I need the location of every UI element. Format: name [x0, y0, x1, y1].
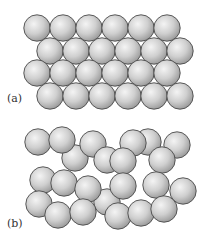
sphere — [151, 196, 177, 222]
sphere — [24, 60, 50, 86]
sphere — [143, 172, 169, 198]
sphere — [102, 60, 128, 86]
panel-a-ordered-spheres — [24, 15, 193, 109]
sphere — [75, 176, 101, 202]
sphere — [25, 129, 51, 155]
sphere — [76, 60, 102, 86]
sphere — [102, 15, 128, 41]
sphere — [76, 15, 102, 41]
sphere — [154, 15, 180, 41]
sphere — [51, 170, 77, 196]
sphere-packing-diagram — [0, 0, 206, 236]
sphere — [141, 83, 167, 109]
sphere — [37, 83, 63, 109]
panel-a-label: (a) — [7, 93, 22, 104]
sphere — [115, 83, 141, 109]
sphere — [110, 148, 136, 174]
sphere — [149, 147, 175, 173]
sphere — [70, 199, 96, 225]
sphere — [128, 15, 154, 41]
sphere — [154, 60, 180, 86]
sphere — [167, 83, 193, 109]
panel-b-label: (b) — [7, 218, 23, 229]
sphere — [128, 60, 154, 86]
sphere — [63, 83, 89, 109]
sphere — [128, 200, 154, 226]
sphere — [105, 203, 131, 229]
sphere — [110, 173, 136, 199]
sphere — [50, 60, 76, 86]
sphere — [50, 15, 76, 41]
sphere — [89, 83, 115, 109]
sphere — [24, 15, 50, 41]
panel-b-disordered-spheres — [25, 127, 196, 229]
sphere — [49, 127, 75, 153]
sphere-packing-figure: (a) (b) — [0, 0, 206, 236]
sphere — [45, 202, 71, 228]
